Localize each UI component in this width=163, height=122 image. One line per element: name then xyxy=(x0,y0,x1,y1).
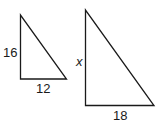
large-triangle-shape xyxy=(86,10,155,106)
large-vertical-leg-label: x xyxy=(75,54,83,69)
similar-triangles-diagram: 16 12 x 18 xyxy=(0,0,163,122)
small-triangle-shape xyxy=(21,15,67,79)
small-vertical-leg-label: 16 xyxy=(3,45,17,60)
small-base-label: 12 xyxy=(36,81,50,96)
large-base-label: 18 xyxy=(113,108,127,122)
small-triangle: 16 12 xyxy=(3,15,67,96)
large-triangle: x 18 xyxy=(75,10,154,122)
